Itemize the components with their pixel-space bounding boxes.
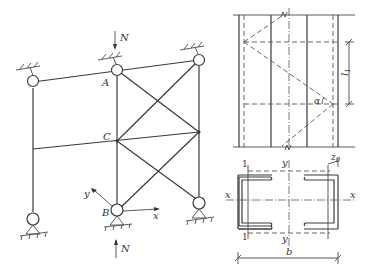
- angle-label: α: [314, 96, 320, 106]
- joint-top-left: [28, 76, 39, 87]
- load-arrow-top: [113, 31, 117, 50]
- joint-C: [116, 140, 119, 143]
- column-elevation: α l1: [233, 8, 355, 150]
- dimension-b-label: b: [286, 246, 292, 257]
- joint-A: [112, 65, 123, 76]
- axis-y-bottom: y: [281, 233, 288, 244]
- axis-x-left: x: [225, 189, 231, 200]
- support-top-left: [16, 62, 40, 76]
- cross-section: 1 1 x x y y z0 b: [225, 152, 356, 264]
- load-arrow-bottom: [114, 239, 118, 258]
- dimension-l1-label: l1: [339, 68, 352, 76]
- brace-upper-2: [117, 60, 199, 141]
- dimension-z0-label: z0: [330, 152, 341, 164]
- axis-1-top: 1: [242, 159, 248, 169]
- axis-label-x: x: [153, 210, 159, 221]
- joint-top-right: [194, 55, 205, 66]
- support-top-middle: [98, 52, 122, 64]
- axis-x-right: x: [350, 189, 356, 200]
- axis-1-bottom: 1: [242, 232, 248, 242]
- axis-label-y: y: [83, 188, 90, 199]
- support-top-right: [180, 42, 204, 54]
- support-bottom-right: [186, 197, 214, 225]
- frame-diagram: N N x y A C B: [16, 31, 214, 258]
- support-bottom-left: [20, 213, 48, 240]
- brace-lower-2: [117, 132, 199, 211]
- joint-right-middle: [198, 131, 201, 134]
- axis-y-top: y: [281, 157, 288, 168]
- structural-diagram: N N x y A C B: [0, 0, 372, 275]
- label-A: A: [101, 77, 109, 88]
- label-B: B: [101, 207, 109, 218]
- channel-left: [239, 177, 272, 229]
- load-label-bottom: N: [120, 243, 131, 254]
- load-label-top: N: [119, 32, 130, 43]
- axis-arrow-y: [91, 188, 112, 206]
- label-C: C: [103, 131, 111, 142]
